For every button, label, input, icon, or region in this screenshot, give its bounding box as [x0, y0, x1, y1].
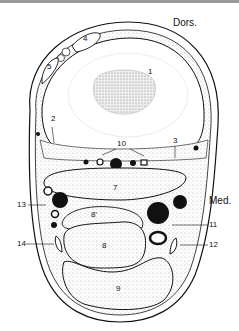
label-dorsal: Dors. — [173, 18, 197, 28]
label-5: 5 — [47, 63, 51, 71]
label-medial: Med. — [209, 196, 231, 206]
label-13: 13 — [17, 201, 26, 209]
cross-section-drawing — [0, 0, 239, 331]
label-1: 1 — [148, 68, 152, 76]
label-3: 3 — [173, 137, 177, 145]
label-14: 14 — [17, 240, 26, 248]
label-11: 11 — [209, 221, 217, 229]
label-8: 8 — [102, 242, 106, 250]
label-9: 9 — [116, 285, 120, 293]
label-8-prime: 8' — [91, 211, 97, 219]
label-4: 4 — [83, 35, 87, 43]
label-7: 7 — [113, 184, 117, 192]
label-2: 2 — [51, 115, 55, 123]
label-12: 12 — [209, 241, 218, 249]
label-10: 10 — [117, 140, 126, 148]
